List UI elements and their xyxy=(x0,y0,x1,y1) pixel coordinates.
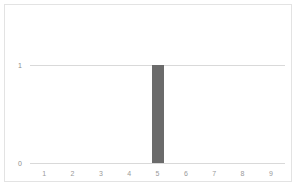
bar xyxy=(152,65,164,163)
y-tick-label-1: 1 xyxy=(8,62,22,70)
plot-area xyxy=(30,65,285,164)
x-tick-label: 2 xyxy=(66,170,80,178)
gridline-value-0 xyxy=(30,163,285,164)
y-tick-label-0: 0 xyxy=(8,160,22,168)
x-tick-label: 1 xyxy=(37,170,51,178)
x-tick-label: 9 xyxy=(264,170,278,178)
x-tick-label: 4 xyxy=(122,170,136,178)
chart-figure: 1 0 123456789 xyxy=(0,0,297,188)
x-tick-label: 8 xyxy=(236,170,250,178)
x-tick-label: 7 xyxy=(207,170,221,178)
x-tick-label: 5 xyxy=(151,170,165,178)
x-tick-label: 6 xyxy=(179,170,193,178)
x-tick-label: 3 xyxy=(94,170,108,178)
